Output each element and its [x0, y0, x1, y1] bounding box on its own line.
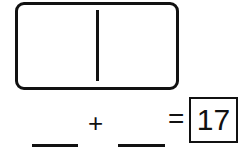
domino-divider [96, 10, 99, 81]
equals-sign: = [168, 106, 184, 132]
addend-2-blank[interactable] [118, 144, 165, 147]
sum-box: 17 [189, 97, 238, 143]
plus-sign: + [88, 110, 103, 136]
domino-outline [15, 2, 179, 90]
addend-1-blank[interactable] [32, 144, 78, 147]
